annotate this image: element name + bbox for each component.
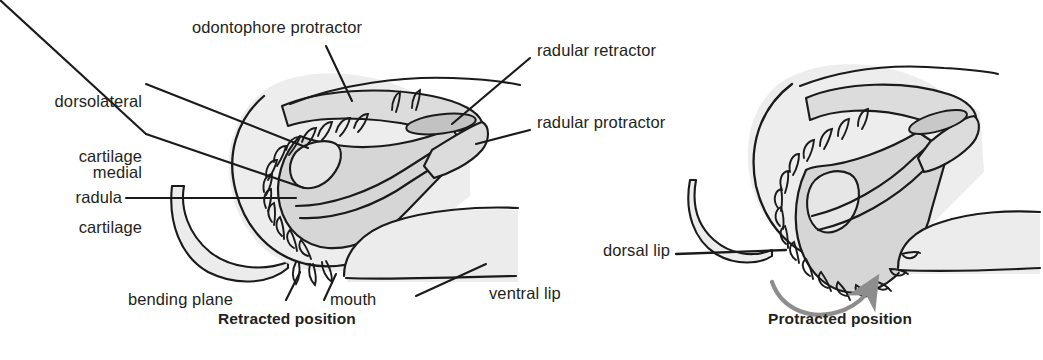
- label-dorsolateral-cartilage-line1: dorsolateral: [0, 92, 142, 110]
- caption-protracted-position: Protracted position: [768, 310, 912, 328]
- label-medial-cartilage-line1: medial: [0, 163, 142, 181]
- label-radular-protractor: radular protractor: [537, 113, 665, 131]
- caption-retracted-position: Retracted position: [218, 310, 356, 328]
- label-radula: radula: [0, 188, 122, 206]
- figure-canvas: odontophore protractor dorsolateral cart…: [0, 0, 1043, 360]
- label-medial-cartilage-line2: cartilage: [0, 218, 142, 236]
- label-ventral-lip: ventral lip: [489, 284, 561, 302]
- panel-protracted: [676, 64, 1040, 314]
- label-mouth: mouth: [330, 290, 376, 308]
- label-radular-retractor: radular retractor: [537, 41, 656, 59]
- label-dorsal-lip: dorsal lip: [530, 241, 670, 259]
- label-bending-plane: bending plane: [128, 290, 233, 308]
- leader-radular-retractor: [452, 58, 530, 124]
- label-odontophore-protractor: odontophore protractor: [192, 18, 362, 36]
